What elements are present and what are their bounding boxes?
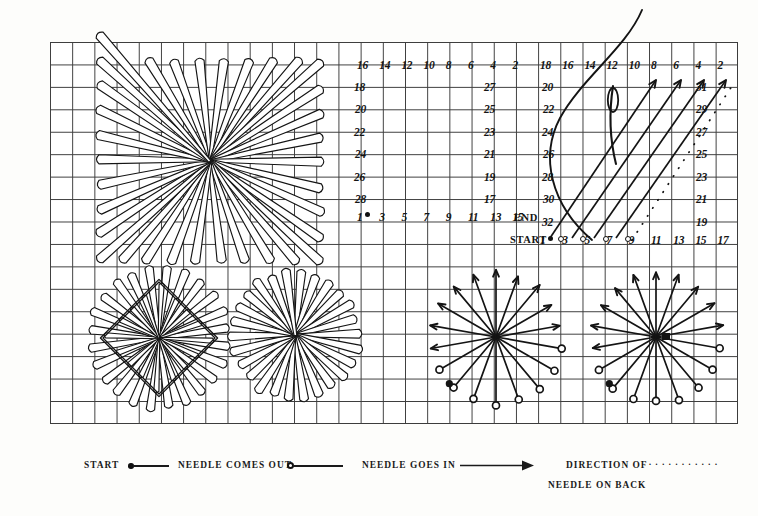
legend-label-direction-2: NEEDLE ON BACK (548, 480, 646, 490)
chart-top-2: 2 (512, 60, 517, 72)
chart-left-28: 28 (355, 194, 366, 206)
stitch-thread-lines (536, 58, 746, 258)
chart-bottom-11: 11 (468, 212, 478, 224)
legend-label-start: START (84, 460, 119, 470)
diagram-sheet: 1614121086421820222426282725232119171357… (0, 0, 758, 516)
chart-top-12: 12 (401, 60, 412, 72)
chart-top-10: 10 (424, 60, 435, 72)
chart-bottom-13: 13 (490, 212, 501, 224)
chart-top-16: 16 (357, 60, 368, 72)
chart-top-8: 8 (446, 60, 451, 72)
working-diagram-arrows-left (420, 262, 572, 412)
chart-bottom-7: 7 (424, 212, 429, 224)
chart-right-17: 17 (484, 194, 495, 206)
chart-top-6: 6 (468, 60, 473, 72)
chart-left-24: 24 (355, 149, 366, 161)
legend-label-direction-1: DIRECTION OF (566, 460, 648, 470)
chart-top-14: 14 (379, 60, 390, 72)
chart-bottom-9: 9 (446, 212, 451, 224)
start-line (133, 465, 169, 466)
legend-label-needle-in: NEEDLE GOES IN (362, 460, 456, 470)
chart-bottom-5: 5 (401, 212, 406, 224)
legend-label-needle-out: NEEDLE COMES OUT (178, 460, 292, 470)
end-label: END (514, 212, 538, 223)
diamond-outline-star (84, 264, 234, 412)
chart-left-20: 20 (355, 104, 366, 116)
chart-right-21: 21 (484, 149, 495, 161)
chart-left-18: 18 (354, 82, 365, 94)
chart-bottom-1: 1 (357, 212, 362, 224)
needle-in-arrow-icon (460, 458, 536, 474)
chart-bottom-3: 3 (379, 212, 384, 224)
working-diagram-arrows-right (574, 262, 738, 412)
chart-left-26: 26 (354, 172, 365, 184)
chart-right-19: 19 (484, 172, 495, 184)
numbering-chart-front: 1614121086421820222426282725232119171357… (352, 60, 520, 230)
start-dot-marker (365, 212, 370, 217)
chart-right-23: 23 (484, 127, 495, 139)
needle-out-line (293, 465, 343, 466)
large-square-eyelet-star (82, 48, 332, 270)
chart-top-4: 4 (490, 60, 495, 72)
round-eyelet-star (228, 264, 362, 410)
back-dotted-line-icon: ··········· (648, 458, 721, 470)
chart-right-27: 27 (484, 82, 495, 94)
legend: START NEEDLE COMES OUT NEEDLE GOES IN DI… (0, 452, 758, 516)
chart-left-22: 22 (354, 127, 365, 139)
chart-right-25: 25 (484, 104, 495, 116)
